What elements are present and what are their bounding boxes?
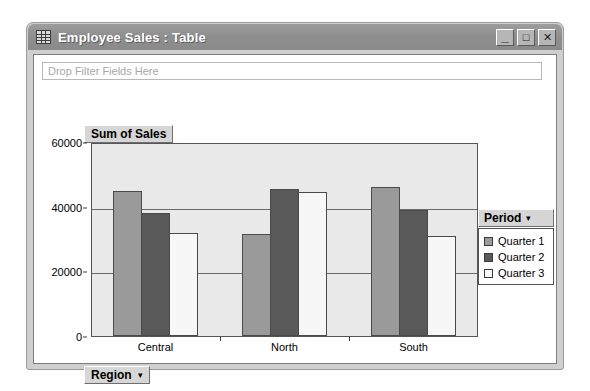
legend-field-label: Period <box>484 211 521 225</box>
y-axis-tick-label: 40000 <box>51 202 82 214</box>
bar[interactable] <box>113 191 142 337</box>
window-titlebar[interactable]: Employee Sales : Table _ □ ✕ <box>28 24 562 50</box>
chart-bars <box>92 144 477 336</box>
close-button[interactable]: ✕ <box>538 29 556 46</box>
bar-group <box>113 144 200 336</box>
x-axis-tick-mark <box>220 337 221 341</box>
legend-items: Quarter 1Quarter 2Quarter 3 <box>478 228 554 285</box>
value-field-label: Sum of Sales <box>91 127 166 141</box>
close-icon: ✕ <box>539 30 555 45</box>
y-axis-tick-mark <box>83 337 87 338</box>
y-axis-tick-label: 60000 <box>51 137 82 149</box>
y-axis-tick-label: 0 <box>76 331 82 343</box>
legend-item-label: Quarter 3 <box>498 267 544 279</box>
legend-swatch <box>484 269 493 278</box>
bar-group <box>242 144 329 336</box>
y-axis-tick-mark <box>83 207 87 208</box>
minimize-icon: _ <box>497 30 513 45</box>
legend-item[interactable]: Quarter 1 <box>484 233 549 249</box>
legend-swatch <box>484 253 493 262</box>
table-grid-icon <box>36 30 51 44</box>
minimize-button[interactable]: _ <box>496 29 514 46</box>
y-axis-tick-mark <box>83 272 87 273</box>
filter-fields-dropzone[interactable]: Drop Filter Fields Here <box>42 62 542 80</box>
window-controls: _ □ ✕ <box>496 29 556 46</box>
bar[interactable] <box>141 213 170 336</box>
pivot-chart-client-area: Drop Filter Fields Here Sum of Sales Reg… <box>33 54 557 364</box>
row-field-label: Region <box>91 368 132 382</box>
filter-dropzone-placeholder: Drop Filter Fields Here <box>48 65 159 77</box>
maximize-button[interactable]: □ <box>517 29 535 46</box>
screenshot-stage: Employee Sales : Table _ □ ✕ Drop Filter… <box>0 0 590 391</box>
legend-swatch <box>484 237 493 246</box>
maximize-icon: □ <box>518 30 534 45</box>
chart-legend: Period ▾ Quarter 1Quarter 2Quarter 3 <box>478 209 554 285</box>
chevron-down-icon: ▾ <box>138 371 143 380</box>
y-axis-tick-mark <box>83 143 87 144</box>
x-axis-tick-mark <box>349 337 350 341</box>
application-window: Employee Sales : Table _ □ ✕ Drop Filter… <box>26 22 564 370</box>
bar[interactable] <box>298 192 327 336</box>
bar[interactable] <box>399 210 428 336</box>
legend-item-label: Quarter 1 <box>498 235 544 247</box>
x-axis-tick-label: North <box>271 341 298 353</box>
y-axis: 0200004000060000 <box>42 143 87 337</box>
value-field-button[interactable]: Sum of Sales <box>84 125 173 143</box>
row-field-button[interactable]: Region ▾ <box>84 366 150 384</box>
bar[interactable] <box>242 234 271 336</box>
legend-item-label: Quarter 2 <box>498 251 544 263</box>
x-axis: CentralNorthSouth <box>91 341 478 357</box>
bar[interactable] <box>427 236 456 336</box>
bar-group <box>371 144 458 336</box>
bar[interactable] <box>169 233 198 336</box>
window-title: Employee Sales : Table <box>58 30 206 45</box>
chart-plot-area <box>91 143 478 337</box>
chevron-down-icon: ▾ <box>526 214 531 223</box>
legend-item[interactable]: Quarter 2 <box>484 249 549 265</box>
x-axis-tick-label: South <box>399 341 428 353</box>
legend-item[interactable]: Quarter 3 <box>484 265 549 281</box>
x-axis-tick-label: Central <box>138 341 173 353</box>
bar[interactable] <box>371 187 400 336</box>
y-axis-tick-label: 20000 <box>51 266 82 278</box>
bar[interactable] <box>270 189 299 336</box>
legend-field-button[interactable]: Period ▾ <box>478 209 554 227</box>
